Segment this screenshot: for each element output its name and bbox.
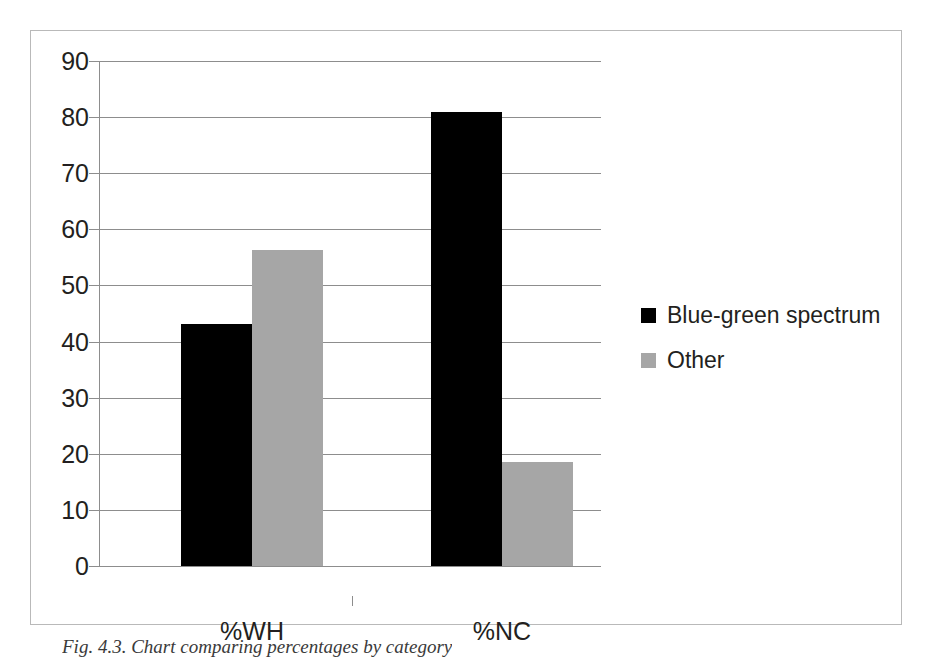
gridline [99,229,601,230]
gridline [99,342,601,343]
legend-label: Blue-green spectrum [667,304,881,327]
y-axis-tick-label: 40 [61,329,89,354]
y-axis-tickmark [89,510,99,511]
y-axis-tick-label: 0 [75,554,89,579]
gridline [99,398,601,399]
gridline [99,285,601,286]
bar-NC-series-b[interactable] [502,462,573,566]
bar-WH-series-b[interactable] [252,250,323,566]
gridline [99,454,601,455]
y-axis-tickmark [89,61,99,62]
gridline [99,61,601,62]
y-axis-tickmark [89,342,99,343]
y-axis-tickmark [89,117,99,118]
y-axis-tickmark [89,398,99,399]
y-axis-tick-label: 80 [61,105,89,130]
y-axis-tick-label: 50 [61,273,89,298]
legend-swatch-icon [641,308,656,323]
y-axis-tickmark [89,454,99,455]
x-axis-category-label: %NC [473,617,531,646]
y-axis-tickmark [89,566,99,567]
y-axis-tick-labels: 9080706050403020100 [31,61,89,566]
x-axis-tickmark [352,596,353,606]
y-axis-tick-label: 70 [61,161,89,186]
gridline [99,173,601,174]
legend-item[interactable]: Other [641,338,891,383]
y-axis-tick-label: 10 [61,497,89,522]
chart-legend: Blue-green spectrumOther [641,293,891,383]
legend-label: Other [667,349,725,372]
legend-swatch-icon [641,353,656,368]
plot-area: %WH%NC [99,61,601,566]
y-axis-tick-label: 60 [61,217,89,242]
y-axis-tick-label: 20 [61,441,89,466]
y-axis-tickmark [89,285,99,286]
y-axis-tick-label: 90 [61,49,89,74]
y-axis-tick-label: 30 [61,385,89,410]
bar-NC-series-a[interactable] [431,112,502,567]
figure-frame: 9080706050403020100 %WH%NC Blue-green sp… [30,30,902,625]
figure-caption: Fig. 4.3. Chart comparing percentages by… [62,636,452,658]
gridline [99,117,601,118]
y-axis-tickmark [89,173,99,174]
gridline [99,566,601,567]
legend-item[interactable]: Blue-green spectrum [641,293,891,338]
bar-WH-series-a[interactable] [181,324,252,566]
y-axis-tickmark [89,229,99,230]
